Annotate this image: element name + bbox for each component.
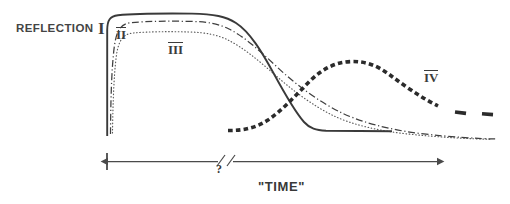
- curve-label-four: IV: [424, 70, 438, 85]
- curve-label-two: II: [116, 27, 126, 42]
- curve-four-path: [228, 62, 438, 131]
- curve-label-one: I: [98, 19, 105, 39]
- curve-label-three: III: [168, 42, 183, 57]
- x-axis-label: "TIME": [258, 179, 305, 194]
- figure-container: REFLECTION I II III IV ? "TIME": [0, 0, 510, 204]
- curve-four-trailing-dash-1: [455, 112, 466, 113]
- axis-break-slash-2: [227, 155, 235, 166]
- axis-break-question-mark: ?: [216, 162, 222, 177]
- y-axis-label: REFLECTION: [16, 22, 93, 34]
- curve-four-trailing-dash-2: [482, 114, 493, 115]
